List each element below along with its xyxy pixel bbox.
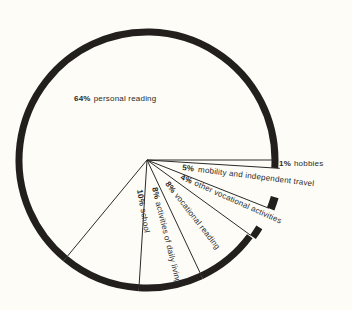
slice-label-personal-reading: 64%personal reading: [74, 94, 156, 103]
pie-chart: 64%personal reading 1%hobbies 5%mobility…: [0, 0, 352, 310]
ring-segment-school: [65, 259, 139, 288]
slice-divider: [65, 160, 147, 259]
ring-segment-activities-of-daily-living: [139, 276, 202, 288]
ring-segment-other-vocational-activities: [253, 227, 259, 237]
slice-label-hobbies: 1%hobbies: [279, 159, 323, 168]
ring-segment-mobility-and-independent-travel: [271, 197, 275, 209]
slice-label-school: 10%school: [135, 189, 151, 234]
